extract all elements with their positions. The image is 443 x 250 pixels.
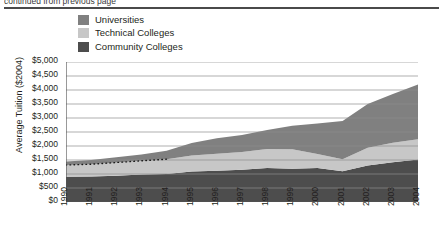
- legend-swatch-icon: [78, 28, 89, 38]
- x-axis-tick-labels: 1990199119921993199419951996199719981999…: [66, 204, 418, 250]
- y-axis-tick-label: $1,500: [14, 154, 58, 163]
- figure-stacked-area-chart: continued from previous page Universitie…: [0, 0, 443, 250]
- x-axis-tick-label: 1995: [186, 187, 195, 233]
- plot-area: [66, 62, 418, 202]
- x-axis-tick-label: 1994: [161, 187, 170, 233]
- x-axis-tick-label: 1996: [211, 187, 220, 233]
- legend-item: Universities: [78, 13, 278, 27]
- x-axis-tick-label: 2004: [412, 187, 421, 233]
- legend-item-label: Universities: [95, 15, 144, 25]
- legend-item: Technical Colleges: [78, 27, 278, 41]
- x-axis-tick-label: 1998: [261, 187, 270, 233]
- y-axis-tick-label: $5,000: [14, 56, 58, 65]
- legend-item: Community Colleges: [78, 40, 278, 54]
- chart-legend: UniversitiesTechnical CollegesCommunity …: [78, 13, 278, 54]
- x-axis-tick-label: 2000: [311, 187, 320, 233]
- y-axis-tick-label: $3,500: [14, 98, 58, 107]
- legend-item-label: Technical Colleges: [95, 28, 174, 38]
- y-axis-tick-label: $2,500: [14, 126, 58, 135]
- header-divider: [4, 7, 439, 9]
- y-axis-tick-label: $2,000: [14, 140, 58, 149]
- y-axis-tick-label: $4,500: [14, 70, 58, 79]
- stacked-area-svg: [66, 62, 418, 202]
- x-axis-tick-label: 2001: [337, 187, 346, 233]
- x-axis-tick-label: 2002: [362, 187, 371, 233]
- legend-swatch-icon: [78, 42, 89, 52]
- y-axis-tick-label: $0: [14, 196, 58, 205]
- y-axis-tick-labels: $0$500$1,000$1,500$2,000$2,500$3,000$3,5…: [14, 60, 58, 200]
- y-axis-tick-label: $3,000: [14, 112, 58, 121]
- x-axis-tick-label: 1992: [110, 187, 119, 233]
- x-axis-tick-label: 1999: [286, 187, 295, 233]
- x-axis-tick-label: 1991: [85, 187, 94, 233]
- y-axis-tick-label: $4,000: [14, 84, 58, 93]
- x-axis-tick-label: 1997: [236, 187, 245, 233]
- y-axis-tick-label: $500: [14, 182, 58, 191]
- x-axis-tick-label: 2003: [387, 187, 396, 233]
- cut-off-title: continued from previous page: [4, 0, 439, 6]
- legend-item-label: Community Colleges: [95, 42, 183, 52]
- x-axis-tick-label: 1990: [60, 187, 69, 233]
- legend-swatch-icon: [78, 15, 89, 25]
- x-axis-tick-label: 1993: [135, 187, 144, 233]
- y-axis-tick-label: $1,000: [14, 168, 58, 177]
